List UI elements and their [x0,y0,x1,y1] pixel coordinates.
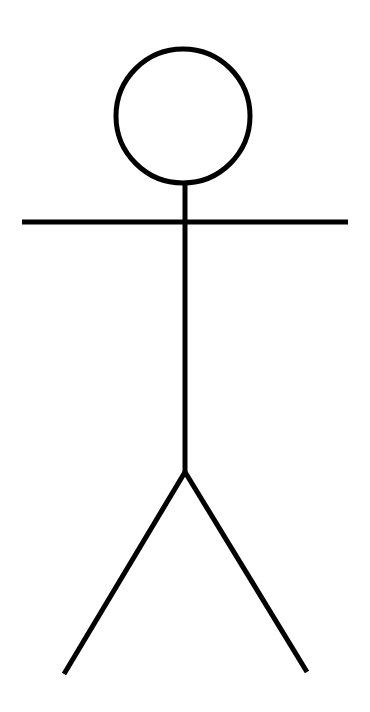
stick-figure-head [116,49,250,183]
stick-figure-canvas [0,0,370,712]
stick-figure-drawing [0,0,370,712]
stick-figure-right-leg [185,472,307,672]
stick-figure-left-leg [64,472,185,674]
